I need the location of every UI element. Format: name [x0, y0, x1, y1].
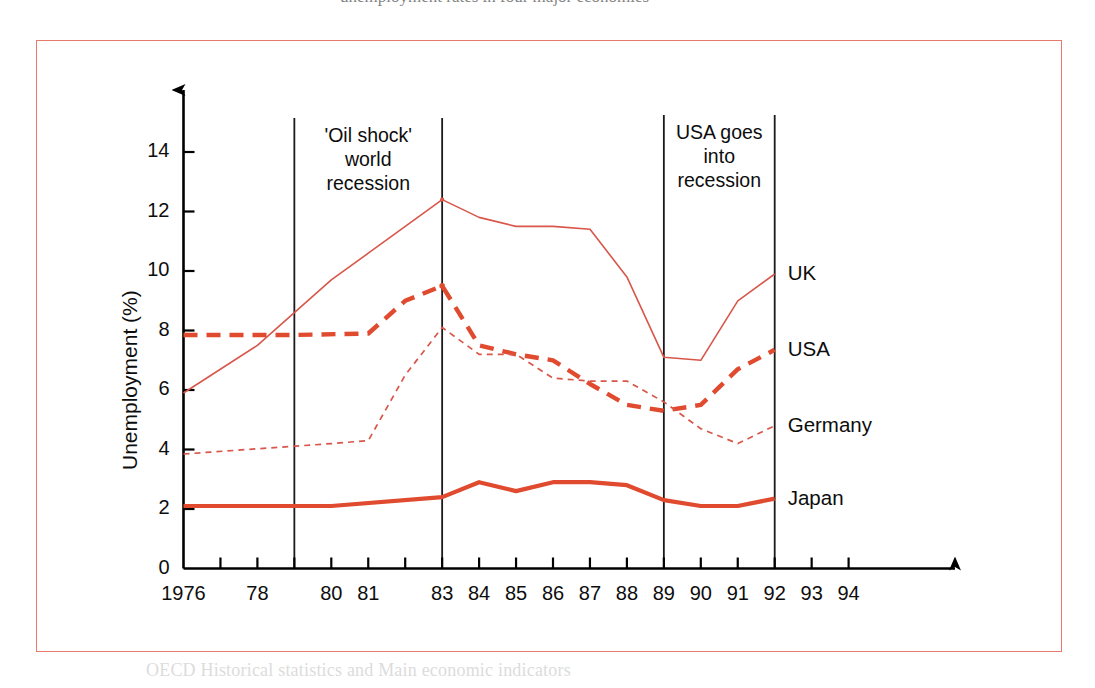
- annotation-rules: [294, 115, 774, 568]
- series-line-japan: [184, 482, 775, 506]
- series-line-uk: [184, 200, 775, 393]
- series-line-germany: [184, 328, 775, 455]
- chart-canvas: [0, 0, 1095, 688]
- line-chart: Unemployment (%) 02468101214197678808183…: [0, 0, 1095, 688]
- series-line-usa: [184, 286, 775, 411]
- series-peak-marker-usa: [439, 283, 445, 289]
- series-peak-marker-uk: [440, 198, 444, 202]
- x-axis-ticks: [220, 558, 848, 569]
- series-layer: [184, 198, 775, 507]
- axes: [184, 90, 956, 569]
- y-axis-ticks: [184, 152, 195, 509]
